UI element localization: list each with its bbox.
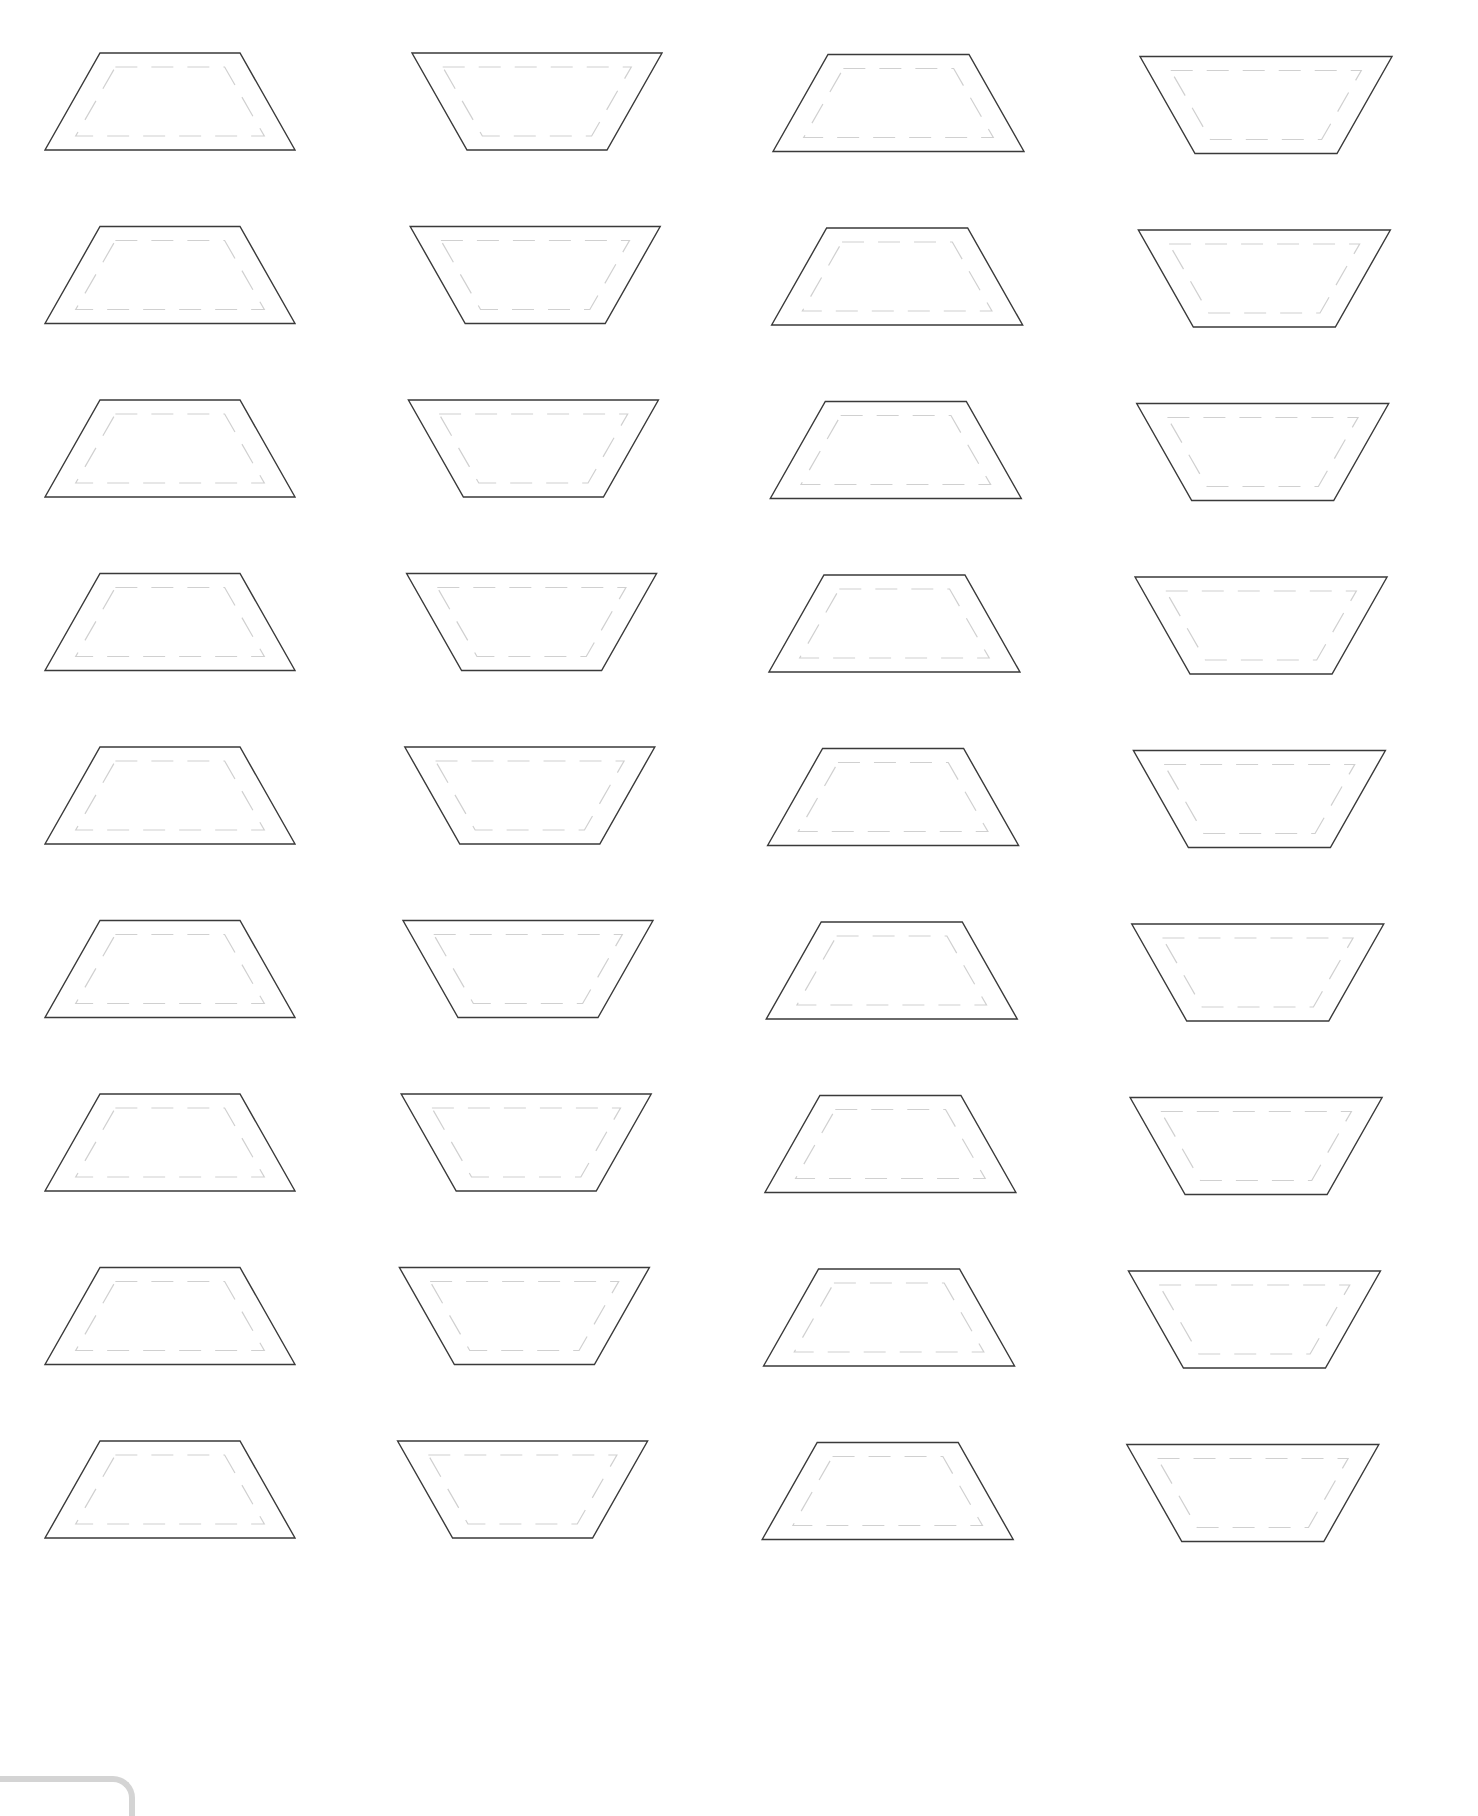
seam-line xyxy=(443,67,632,136)
trapezoid-inverted xyxy=(403,921,653,1018)
trapezoid-inverted xyxy=(407,574,657,671)
trapezoid-inverted xyxy=(401,1094,651,1191)
seam-line xyxy=(1171,71,1362,140)
trapezoid-upright xyxy=(766,922,1017,1019)
seam-line xyxy=(800,589,990,658)
trapezoid-upright xyxy=(45,1441,295,1538)
trapezoid-inverted xyxy=(412,53,662,150)
seam-line xyxy=(76,761,265,830)
trapezoid-inverted xyxy=(1138,230,1390,327)
trapezoid-inverted xyxy=(1133,751,1385,848)
trapezoid-inverted xyxy=(1135,577,1387,674)
seam-line xyxy=(436,761,625,830)
seam-line xyxy=(794,1283,984,1352)
seam-line xyxy=(76,588,265,657)
seam-line xyxy=(1162,938,1353,1007)
seam-line xyxy=(802,242,992,311)
trapezoid-upright xyxy=(45,921,295,1018)
trapezoid-upright xyxy=(770,402,1021,499)
trapezoid-upright xyxy=(764,1269,1015,1366)
seam-line xyxy=(434,935,623,1004)
trapezoid-inverted xyxy=(1128,1271,1380,1368)
seam-line xyxy=(1161,1112,1352,1181)
seam-line xyxy=(1167,418,1358,487)
trapezoid-upright xyxy=(765,1096,1016,1193)
trapezoid-upright xyxy=(769,575,1020,672)
trapezoid-inverted xyxy=(1137,404,1389,501)
trapezoid-upright xyxy=(762,1443,1013,1540)
seam-line xyxy=(793,1457,983,1526)
seam-line xyxy=(801,416,991,485)
seam-line xyxy=(796,1110,986,1179)
trapezoid-grid xyxy=(45,53,1392,1542)
trapezoid-upright xyxy=(45,1268,295,1365)
seam-line xyxy=(76,1282,265,1351)
seam-line xyxy=(798,763,988,832)
trapezoid-upright xyxy=(772,228,1023,325)
seam-line xyxy=(1158,1459,1349,1528)
trapezoid-inverted xyxy=(410,227,660,324)
seam-line xyxy=(437,588,626,657)
trapezoid-inverted xyxy=(398,1441,648,1538)
seam-line xyxy=(1169,244,1360,313)
seam-line xyxy=(804,69,994,138)
seam-line xyxy=(1164,765,1355,834)
seam-line xyxy=(76,1455,265,1524)
trapezoid-inverted xyxy=(1130,1098,1382,1195)
trapezoid-upright xyxy=(45,400,295,497)
seam-line xyxy=(76,1108,265,1177)
trapezoid-upright xyxy=(768,749,1019,846)
trapezoid-upright xyxy=(45,53,295,150)
seam-line xyxy=(76,241,265,310)
seam-line xyxy=(76,935,265,1004)
seam-line xyxy=(430,1282,619,1351)
trapezoid-upright xyxy=(45,747,295,844)
trapezoid-inverted xyxy=(1132,924,1384,1021)
trapezoid-upright xyxy=(45,227,295,324)
trapezoid-inverted xyxy=(1140,57,1392,154)
trapezoid-upright xyxy=(45,574,295,671)
seam-line xyxy=(1166,591,1357,660)
trapezoid-inverted xyxy=(408,400,658,497)
corner-tab xyxy=(0,1776,135,1816)
seam-line xyxy=(1159,1285,1350,1354)
trapezoid-upright xyxy=(773,55,1024,152)
seam-line xyxy=(76,414,265,483)
seam-line xyxy=(76,67,265,136)
trapezoid-inverted xyxy=(405,747,655,844)
seam-line xyxy=(432,1108,621,1177)
trapezoid-upright xyxy=(45,1094,295,1191)
seam-line xyxy=(441,241,630,310)
trapezoid-inverted xyxy=(1127,1445,1379,1542)
seam-line xyxy=(439,414,628,483)
trapezoid-inverted xyxy=(399,1268,649,1365)
seam-line xyxy=(428,1455,617,1524)
seam-line xyxy=(797,936,987,1005)
